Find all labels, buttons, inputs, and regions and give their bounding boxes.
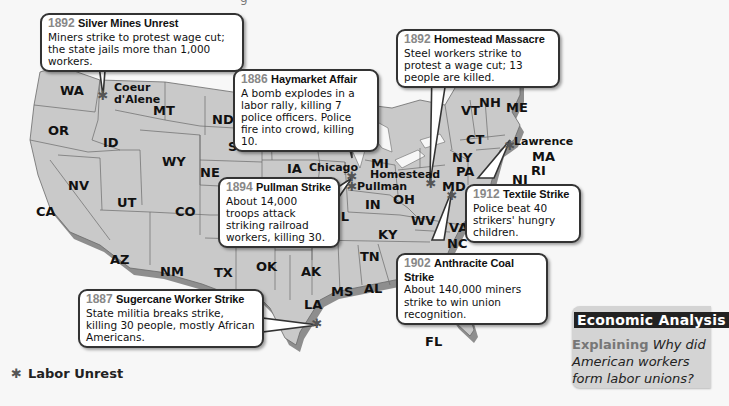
event-title: Haymarket Affair: [271, 73, 357, 85]
star-icon-homestead: ✱: [425, 178, 437, 190]
event-description: A bomb explodes in a labor rally, killin…: [241, 87, 371, 147]
state-label-in: IN: [365, 198, 381, 211]
state-label-or: OR: [48, 124, 69, 137]
event-year: 1892: [48, 16, 75, 30]
event-year: 1886: [241, 72, 268, 86]
state-label-vt: VT: [461, 104, 480, 117]
city-label-coeur-dalene: Coeur d'Alene: [114, 82, 160, 105]
state-label-ct: CT: [466, 133, 484, 146]
state-label-tn: TN: [360, 250, 380, 263]
state-label-ms: MS: [331, 285, 353, 298]
star-icon-coeur-dalene: ✱: [97, 90, 109, 102]
state-label-wa: WA: [60, 84, 84, 97]
event-description: Miners strike to protest wage cut; the s…: [48, 31, 236, 67]
event-description: About 140,000 miners strike to win union…: [404, 283, 540, 319]
economic-analysis-title: Economic Analysis: [574, 312, 729, 328]
state-label-ak: AK: [301, 265, 321, 278]
callout-textile: 1912 Textile Strike Police beat 40 strik…: [465, 184, 581, 243]
city-label-pullman: Pullman: [357, 181, 407, 193]
event-description: Police beat 40 strikers' hungry children…: [473, 202, 573, 238]
state-label-nd: ND: [212, 113, 234, 126]
event-year: 1894: [226, 180, 253, 194]
state-label-ri: RI: [531, 164, 546, 177]
event-year: 1902: [404, 256, 431, 270]
star-icon-louisiana: ✱: [311, 318, 323, 330]
state-label-tx: TX: [214, 266, 233, 279]
event-year: 1887: [86, 292, 113, 306]
state-label-co: CO: [175, 205, 196, 218]
callout-anthracite: 1902 Anthracite Coal Strike About 140,00…: [396, 253, 548, 325]
state-label-wy: WY: [162, 155, 186, 168]
state-label-fl: FL: [425, 335, 442, 348]
state-label-ca: CA: [36, 205, 56, 218]
state-label-nh: NH: [479, 96, 501, 109]
map-legend: ✱Labor Unrest: [11, 366, 123, 381]
callout-sugarcane: 1887 Sugercane Worker Strike State milit…: [78, 289, 264, 348]
state-label-oh: OH: [393, 193, 415, 206]
city-label-dalene: d'Alene: [114, 93, 160, 106]
state-label-pa: PA: [456, 165, 474, 178]
star-icon-lawrence: ✱: [504, 140, 516, 152]
callout-homestead: 1892 Homestead Massacre Steel workers st…: [396, 29, 560, 88]
economic-analysis-question: Explaining Why did American workers form…: [572, 336, 712, 387]
state-label-ia: IA: [287, 162, 302, 175]
economic-analysis-box: Economic Analysis Explaining Why did Ame…: [572, 306, 711, 388]
event-description: State militia breaks strike, killing 30 …: [86, 307, 256, 343]
callout-silver-mines: 1892 Silver Mines Unrest Miners strike t…: [40, 13, 244, 72]
state-label-ma: MA: [532, 150, 555, 163]
city-label-lawrence: Lawrence: [514, 136, 573, 148]
callout-haymarket: 1886 Haymarket Affair A bomb explodes in…: [233, 69, 379, 152]
event-title: Homestead Massacre: [434, 33, 545, 45]
event-title: Silver Mines Unrest: [78, 17, 178, 29]
state-label-ne: NE: [200, 166, 220, 179]
event-year: 1912: [473, 187, 500, 201]
star-icon-pullman: ✱: [346, 181, 358, 193]
state-label-id: ID: [103, 136, 119, 149]
state-label-az: AZ: [110, 253, 130, 266]
state-label-al: AL: [364, 282, 382, 295]
state-label-ky: KY: [378, 228, 398, 241]
state-label-ny: NY: [452, 151, 472, 164]
state-label-ut: UT: [117, 196, 136, 209]
star-icon: ✱: [11, 366, 22, 381]
callout-pullman: 1894 Pullman Strike About 14,000 troops …: [218, 177, 340, 248]
legend-label: Labor Unrest: [28, 366, 123, 381]
state-label-nc: NC: [447, 237, 467, 250]
question-keyword: Explaining: [572, 337, 649, 352]
state-label-me: ME: [506, 101, 528, 114]
state-label-wv: WV: [411, 214, 435, 227]
star-icon-anthracite: ✱: [446, 190, 458, 202]
event-title: Pullman Strike: [256, 181, 331, 193]
state-label-nm: NM: [160, 265, 184, 278]
event-title: Sugercane Worker Strike: [116, 293, 244, 305]
event-description: About 14,000 troops attack striking rail…: [226, 195, 332, 243]
event-title: Textile Strike: [503, 188, 569, 200]
truncated-top-text: g: [240, 0, 248, 5]
state-label-nv: NV: [68, 179, 89, 192]
event-year: 1892: [404, 32, 431, 46]
state-label-la: LA: [304, 298, 322, 311]
state-label-mt: MT: [153, 104, 175, 117]
state-label-ok: OK: [256, 260, 277, 273]
event-description: Steel workers strike to protest a wage c…: [404, 47, 552, 83]
